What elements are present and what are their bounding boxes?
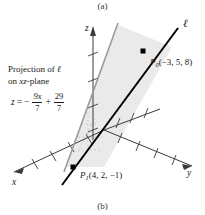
fraction-1-numerator: 9x [32,92,42,101]
projection-annotation-line1: Projection of ℓ [8,64,104,76]
projection-equation: z = − 9x 7 + 29 7 [11,92,65,112]
line-ell-label: ℓ [183,17,188,29]
caption-bottom: (b) [0,201,205,211]
equation-fraction-1: 9x 7 [32,92,42,112]
projection-plane-name: xz [19,76,27,86]
figure-3d-line-projection: (a) [0,0,205,215]
projecting-plane-shade [66,25,172,167]
point-marker-p1 [71,165,76,170]
p0-coords: (−3, 5, 8) [159,57,193,67]
equation-equals: = [17,97,22,107]
y-axis-label: y [187,168,191,178]
point-label-p1: P1(4, 2, −1) [80,170,122,181]
fraction-1-denominator: 7 [34,104,40,113]
projection-annotation-line2: on xz-plane [8,76,104,88]
point-label-p0: P0(−3, 5, 8) [150,57,192,68]
equation-minus: − [24,97,29,107]
projection-ell-symbol: ℓ [57,64,61,74]
z-axis-label: z [85,23,89,33]
fraction-2-numerator: 29 [54,92,65,101]
projection-annotation: Projection of ℓ on xz-plane [8,64,104,87]
equation-plus: + [45,97,50,107]
p1-coords: (4, 2, −1) [89,170,123,180]
projection-text-prefix: Projection of [8,64,57,74]
y-axis-ticks [118,133,176,165]
point-marker-p0 [141,49,146,54]
equation-lhs: z [11,97,15,107]
projection-plane-suffix: -plane [27,76,50,86]
x-axis-label: x [12,177,16,187]
equation-fraction-2: 29 7 [54,92,65,112]
fraction-2-denominator: 7 [56,104,62,113]
